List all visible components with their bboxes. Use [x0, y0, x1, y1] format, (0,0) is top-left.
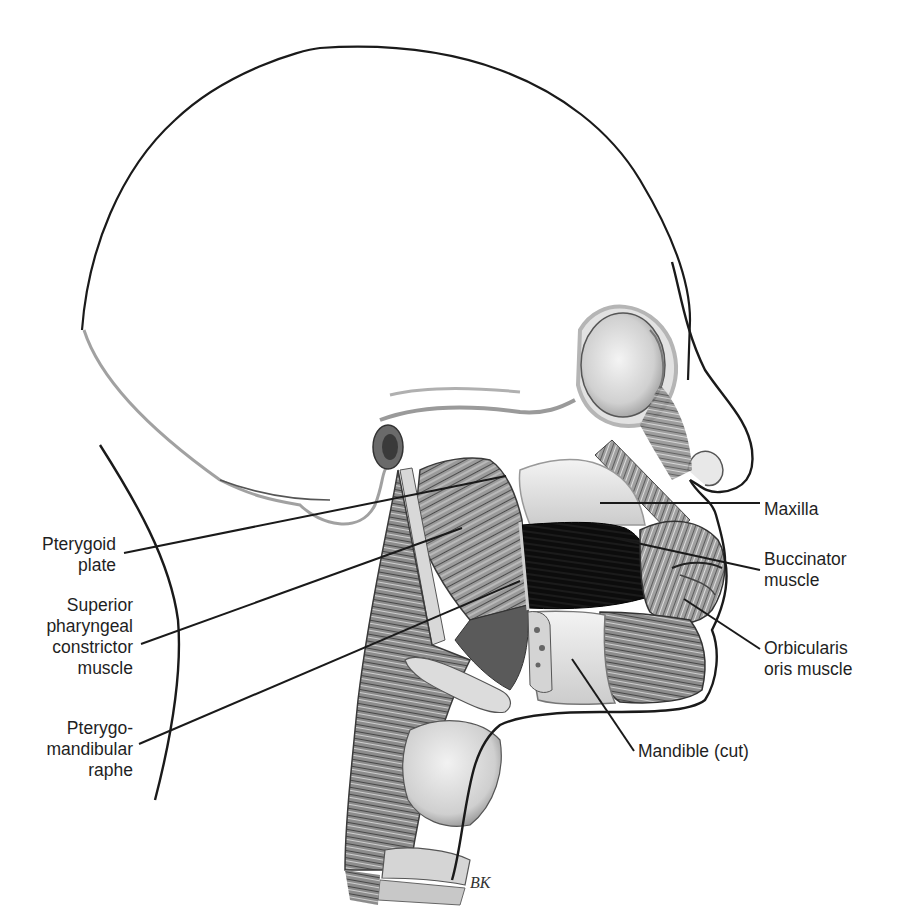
chin-muscles [598, 612, 705, 703]
label-orbicularis-oris-muscle: Orbicularis oris muscle [764, 638, 884, 680]
label-maxilla: Maxilla [764, 499, 884, 520]
orbicularis-oris [640, 521, 725, 623]
thyroid-cartilage [403, 721, 501, 827]
label-mandible-cut: Mandible (cut) [638, 741, 798, 762]
mandible-cut-surface [528, 612, 552, 693]
zygomatic-arch [380, 400, 575, 420]
artist-signature: BK [470, 874, 492, 891]
label-superior-pharyngeal-constrictor-muscle: Superior pharyngeal constrictor muscle [20, 595, 133, 679]
label-pterygoid-plate: Pterygoid plate [20, 534, 116, 576]
head-neck-illustration: BK [0, 0, 902, 922]
label-buccinator-muscle: Buccinator muscle [764, 549, 884, 591]
label-pterygomandibular-raphe: Pterygo- mandibular raphe [20, 718, 133, 781]
buccinator-muscle-fill [522, 522, 655, 608]
